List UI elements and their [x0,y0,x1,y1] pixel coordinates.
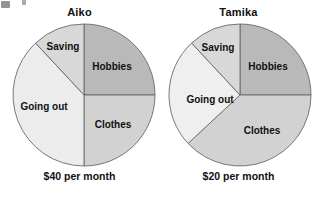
pie-slice-label: Hobbies [92,61,132,72]
pie-slice-label: Going out [186,94,234,105]
chart-caption-aiko: $40 per month [0,170,159,183]
pie-slice [84,24,155,95]
pie-chart-aiko: Aiko HobbiesClothesGoing outSaving $40 p… [0,0,159,200]
chart-caption-tamika: $20 per month [159,170,318,183]
pie-chart-tamika: Tamika HobbiesClothesGoing outSaving $20… [159,0,318,200]
pie-slice-label: Saving [47,41,80,52]
pie-slice-label: Going out [20,101,68,112]
pie-slice [240,24,311,95]
pie-slice-label: Saving [202,42,235,53]
pie-slice [84,95,155,166]
pie-slice-label: Clothes [95,119,132,130]
pie-chart-figure: Aiko HobbiesClothesGoing outSaving $40 p… [0,0,318,200]
pie-slice-label: Hobbies [248,61,288,72]
pie-slice-label: Clothes [244,125,281,136]
